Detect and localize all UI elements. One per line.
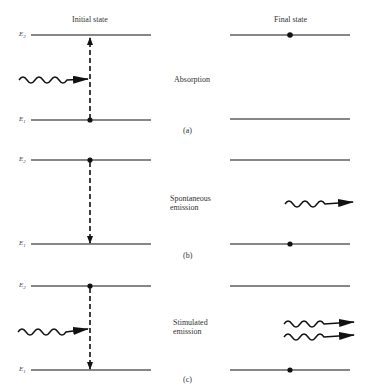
level-subscript: 1 — [23, 119, 26, 124]
emitted-photon-wave — [285, 201, 353, 207]
electron-dot — [287, 32, 293, 38]
level-label-e2: E2 — [19, 155, 26, 164]
process-label-spontaneous: Spontaneous — [170, 194, 211, 203]
stimulated-photon-wave — [284, 334, 354, 340]
electron-dot — [287, 367, 292, 372]
incoming-photon-wave — [18, 329, 88, 335]
level-subscript: 1 — [23, 243, 26, 248]
electron-dot — [87, 157, 92, 162]
level-label-e2: E2 — [19, 281, 26, 290]
emitted-photon-wave — [284, 321, 354, 327]
process-label-emission: emission — [173, 327, 201, 336]
level-label-e1: E1 — [19, 239, 26, 248]
level-label-e1: E1 — [19, 365, 26, 374]
process-label-emission: emission — [170, 203, 198, 212]
process-label-absorption: Absorption — [174, 75, 210, 84]
process-label-stimulated: Stimulated — [173, 318, 208, 327]
electron-dot — [287, 241, 292, 246]
caption-c: (c) — [183, 375, 192, 384]
initial-state-header: Initial state — [72, 15, 108, 24]
level-label-e2: E2 — [19, 30, 26, 39]
caption-b: (b) — [183, 251, 192, 260]
level-subscript: 2 — [23, 285, 26, 290]
level-subscript: 2 — [23, 159, 26, 164]
level-label-e1: E1 — [19, 115, 26, 124]
caption-a: (a) — [183, 126, 192, 135]
level-subscript: 1 — [23, 369, 26, 374]
electron-dot — [87, 283, 92, 288]
final-state-header: Final state — [274, 15, 307, 24]
level-subscript: 2 — [23, 34, 26, 39]
electron-dot — [87, 117, 92, 122]
incoming-photon-wave — [19, 77, 88, 83]
